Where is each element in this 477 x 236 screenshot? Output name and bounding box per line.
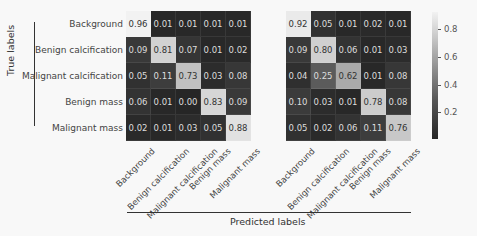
matrix-cell: 0.01 [361,63,386,89]
matrix-cell: 0.09 [226,89,251,115]
matrix-cell: 0.02 [126,115,151,141]
matrix-cell: 0.01 [151,89,176,115]
matrix-cell: 0.06 [336,115,361,141]
matrix-cell: 0.08 [226,63,251,89]
colorbar-tick-mark [438,85,441,86]
matrix-cell: 0.92 [286,11,311,37]
matrix-cell: 0.01 [201,37,226,63]
colorbar-tick-mark [438,57,441,58]
matrix-cell: 0.02 [311,115,336,141]
matrix-cell: 0.05 [311,11,336,37]
matrix-cell: 0.01 [201,11,226,37]
colorbar [432,12,438,139]
matrix-cell: 0.07 [176,37,201,63]
matrix-cell: 0.04 [286,63,311,89]
y-tick-label: Malignant calcification [22,63,123,89]
matrix-cell: 0.05 [201,115,226,141]
matrix-cell: 0.11 [151,63,176,89]
matrix-cell: 0.06 [336,37,361,63]
confusion-matrix-right: 0.920.050.010.020.010.090.800.060.010.03… [286,11,411,141]
matrix-cell: 0.25 [311,63,336,89]
matrix-cell: 0.01 [336,89,361,115]
y-tick-label: Background [69,11,123,37]
matrix-cell: 0.08 [386,89,411,115]
y-tick-label: Benign calcification [35,37,123,63]
confusion-matrix-figure: True labels BackgroundBenign calcificati… [0,0,477,236]
colorbar-tick-mark [438,112,441,113]
colorbar-tick-label: 0.2 [444,107,458,117]
matrix-cell: 0.80 [311,37,336,63]
matrix-cell: 0.76 [386,115,411,141]
matrix-cell: 0.10 [286,89,311,115]
matrix-cell: 0.03 [386,37,411,63]
matrix-cell: 0.01 [336,11,361,37]
colorbar-tick-label: 0.6 [444,52,458,62]
matrix-cell: 0.09 [126,37,151,63]
colorbar-tick-label: 0.4 [444,80,458,90]
matrix-cell: 0.01 [151,115,176,141]
matrix-cell: 0.03 [201,63,226,89]
matrix-cell: 0.62 [336,63,361,89]
matrix-cell: 0.01 [226,11,251,37]
y-tick-label: Benign mass [65,89,123,115]
matrix-cell: 0.08 [386,63,411,89]
y-axis-title: True labels [5,25,16,76]
matrix-cell: 0.01 [361,37,386,63]
matrix-cell: 0.05 [126,63,151,89]
matrix-cell: 0.01 [151,11,176,37]
matrix-cell: 0.88 [226,115,251,141]
colorbar-tick-label: 0.8 [444,24,458,34]
matrix-cell: 0.02 [361,11,386,37]
matrix-cell: 0.09 [286,37,311,63]
matrix-cell: 0.78 [361,89,386,115]
x-axis-title: Predicted labels [230,216,306,227]
matrix-cell: 0.03 [176,115,201,141]
matrix-cell: 0.05 [286,115,311,141]
y-tick-label: Malignant mass [52,115,123,141]
colorbar-tick-mark [438,29,441,30]
matrix-cell: 0.73 [176,63,201,89]
matrix-cell: 0.01 [386,11,411,37]
x-axis-rule [127,212,411,213]
matrix-cell: 0.83 [201,89,226,115]
matrix-cell: 0.01 [176,11,201,37]
matrix-cell: 0.00 [176,89,201,115]
matrix-cell: 0.11 [361,115,386,141]
matrix-cell: 0.06 [126,89,151,115]
matrix-cell: 0.03 [311,89,336,115]
matrix-cell: 0.81 [151,37,176,63]
matrix-cell: 0.02 [226,37,251,63]
confusion-matrix-left: 0.960.010.010.010.010.090.810.070.010.02… [126,11,251,141]
matrix-cell: 0.96 [126,11,151,37]
